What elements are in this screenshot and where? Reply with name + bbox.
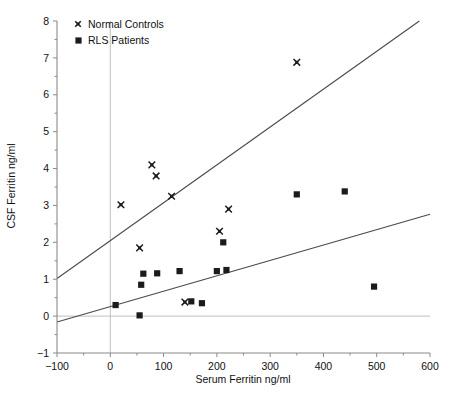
x-tick-labels-group: −1000100200300400500600 xyxy=(45,360,439,372)
y-tick-label: 3 xyxy=(43,199,49,211)
cross-marker-center xyxy=(227,208,230,211)
square-marker-icon xyxy=(220,239,226,245)
x-axis-title: Serum Ferritin ng/ml xyxy=(195,373,290,385)
x-tick-label: 0 xyxy=(107,360,113,372)
y-tick-labels-group: −1012345678 xyxy=(37,15,49,359)
cross-marker-center xyxy=(183,301,186,304)
x-tick-label: 500 xyxy=(368,360,386,372)
y-tick-label: −1 xyxy=(37,347,49,359)
series-normal-controls xyxy=(118,59,300,305)
square-marker-icon xyxy=(136,312,142,318)
square-marker-icon xyxy=(294,191,300,197)
cross-data-point xyxy=(225,206,232,213)
legend-label-rls-patients: RLS Patients xyxy=(88,34,149,46)
square-marker-icon xyxy=(176,268,182,274)
square-data-point xyxy=(138,282,144,288)
normal-controls-regression xyxy=(57,21,419,278)
square-data-point xyxy=(199,300,205,306)
cross-marker-center xyxy=(170,195,173,198)
cross-data-point xyxy=(118,201,125,208)
cross-marker-center xyxy=(155,174,158,177)
y-tick-label: 5 xyxy=(43,125,49,137)
cross-marker-center xyxy=(150,163,153,166)
square-marker-icon xyxy=(75,37,81,43)
y-tick-label: 8 xyxy=(43,15,49,27)
square-marker-icon xyxy=(138,282,144,288)
square-data-point xyxy=(371,284,377,290)
x-tick-label: −100 xyxy=(45,360,69,372)
square-marker-icon xyxy=(342,188,348,194)
cross-data-point xyxy=(182,299,189,306)
x-tick-label: 600 xyxy=(421,360,439,372)
x-tick-label: 200 xyxy=(208,360,226,372)
square-data-point xyxy=(176,268,182,274)
legend-entry-rls-patients: RLS Patients xyxy=(75,34,149,46)
legend-entry-normal-controls: Normal Controls xyxy=(75,18,164,30)
scatter-plot-figure: −1000100200300400500600 −1012345678 Seru… xyxy=(0,0,459,410)
square-marker-icon xyxy=(113,302,119,308)
square-data-point xyxy=(214,268,220,274)
square-data-point xyxy=(294,191,300,197)
cross-data-point xyxy=(293,59,300,66)
cross-data-point xyxy=(168,193,175,200)
square-data-point xyxy=(154,270,160,276)
cross-data-point xyxy=(149,162,156,169)
square-marker-icon xyxy=(199,300,205,306)
x-tick-label: 300 xyxy=(261,360,279,372)
x-tick-label: 400 xyxy=(315,360,333,372)
y-tick-label: 2 xyxy=(43,236,49,248)
square-marker-icon xyxy=(371,284,377,290)
square-data-point xyxy=(136,312,142,318)
square-marker-icon xyxy=(214,268,220,274)
square-data-point xyxy=(113,302,119,308)
cross-marker-center xyxy=(119,203,122,206)
data-points-group xyxy=(113,59,378,318)
square-marker-icon xyxy=(140,271,146,277)
square-marker-icon xyxy=(188,298,194,304)
y-tick-label: 6 xyxy=(43,88,49,100)
square-marker-icon xyxy=(223,267,229,273)
square-data-point xyxy=(140,271,146,277)
square-data-point xyxy=(188,298,194,304)
chart-legend: Normal Controls RLS Patients xyxy=(75,18,164,46)
cross-data-point xyxy=(136,245,143,252)
square-data-point xyxy=(342,188,348,194)
plot-canvas: −1000100200300400500600 −1012345678 Seru… xyxy=(0,0,459,410)
x-tick-label: 100 xyxy=(155,360,173,372)
cross-marker-center xyxy=(138,246,141,249)
square-marker-icon xyxy=(154,270,160,276)
y-tick-label: 4 xyxy=(43,162,49,174)
y-tick-label: 7 xyxy=(43,52,49,64)
regression-lines-group xyxy=(57,21,430,322)
y-tick-label: 1 xyxy=(43,273,49,285)
cross-data-point xyxy=(153,173,160,180)
cross-data-point xyxy=(216,228,223,235)
series-rls-patients xyxy=(113,188,378,318)
legend-label-normal-controls: Normal Controls xyxy=(88,18,164,30)
cross-marker-center xyxy=(218,230,221,233)
cross-marker-icon xyxy=(75,21,81,27)
y-tick-label: 0 xyxy=(43,310,49,322)
y-axis-title: CSF Ferritin ng/ml xyxy=(5,143,17,228)
cross-marker-center xyxy=(295,61,298,64)
square-data-point xyxy=(220,239,226,245)
square-data-point xyxy=(223,267,229,273)
